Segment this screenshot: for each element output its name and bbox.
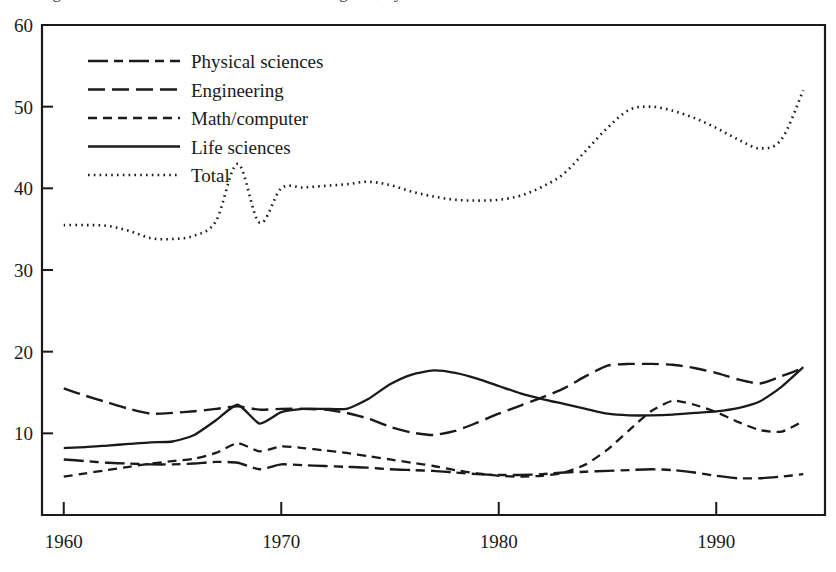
legend-label-math-computer: Math/computer xyxy=(191,108,309,129)
y-tick-label: 30 xyxy=(14,260,33,281)
x-tick-label: 1980 xyxy=(480,531,518,552)
series-line-life-sciences xyxy=(64,367,804,448)
x-tick-label: 1990 xyxy=(697,531,735,552)
x-axis-ticks: 1960197019801990 xyxy=(45,502,736,552)
x-tick-label: 1970 xyxy=(262,531,300,552)
legend-label-physical-sciences: Physical sciences xyxy=(191,51,323,72)
x-tick-label: 1960 xyxy=(45,531,83,552)
y-tick-label: 20 xyxy=(14,342,33,363)
legend-label-engineering: Engineering xyxy=(191,80,284,101)
figure-container: Figure. Ratio of doctorates to bachelor'… xyxy=(0,0,836,572)
y-tick-label: 10 xyxy=(14,423,33,444)
series-line-physical-sciences xyxy=(64,459,804,478)
legend-label-total: Total xyxy=(191,165,230,186)
y-axis-ticks: 102030405060 xyxy=(14,15,53,444)
chart-legend: Physical sciencesEngineeringMath/compute… xyxy=(88,51,323,186)
series-line-engineering xyxy=(64,364,804,435)
y-tick-label: 60 xyxy=(14,15,33,36)
series-line-total xyxy=(64,90,804,239)
legend-label-life-sciences: Life sciences xyxy=(191,137,291,158)
data-series-group xyxy=(64,90,804,478)
y-tick-label: 40 xyxy=(14,178,33,199)
line-chart: 102030405060 1960197019801990 Physical s… xyxy=(0,0,836,572)
y-tick-label: 50 xyxy=(14,97,33,118)
